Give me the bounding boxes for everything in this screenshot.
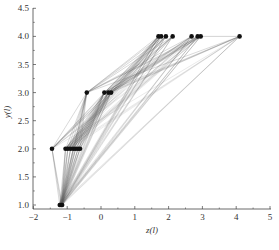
y-tick-label: 3.5 <box>18 60 30 70</box>
data-point <box>85 90 90 95</box>
x-tick-label: −1 <box>62 212 72 222</box>
data-point <box>198 34 203 39</box>
x-tick-label: 5 <box>268 212 273 222</box>
edge-line <box>52 36 198 148</box>
y-axis-label: y(l) <box>2 106 12 120</box>
x-axis-label: z(l) <box>145 225 158 235</box>
scatter-chart: −2−1012345 1.01.52.02.53.03.54.04.5 z(l)… <box>0 0 279 250</box>
data-point <box>164 34 169 39</box>
y-tick-label: 2.5 <box>18 116 30 126</box>
x-tick-label: 2 <box>166 212 171 222</box>
edge-line <box>62 36 201 205</box>
y-tick-label: 1.5 <box>18 172 30 182</box>
edge-line <box>71 36 198 148</box>
x-ticks: −2−1012345 <box>29 206 273 222</box>
edge-line <box>52 149 62 205</box>
edge-line <box>62 36 161 205</box>
data-point <box>237 34 242 39</box>
axes: −2−1012345 1.01.52.02.53.03.54.04.5 <box>18 3 273 222</box>
data-point <box>189 34 194 39</box>
x-tick-label: −2 <box>29 212 39 222</box>
data-point <box>50 147 55 152</box>
y-tick-label: 4.0 <box>18 31 30 41</box>
y-tick-label: 4.5 <box>18 3 30 13</box>
edge-line <box>71 36 201 148</box>
connection-lines <box>52 36 240 205</box>
x-tick-label: 0 <box>99 212 104 222</box>
data-point <box>102 90 107 95</box>
x-tick-label: 3 <box>200 212 205 222</box>
y-tick-label: 3.0 <box>18 88 30 98</box>
y-tick-label: 2.0 <box>18 144 30 154</box>
y-tick-label: 1.0 <box>18 200 30 210</box>
data-point <box>109 90 114 95</box>
data-point <box>159 34 164 39</box>
data-point <box>78 147 83 152</box>
data-point <box>170 34 175 39</box>
edge-line <box>71 36 159 148</box>
x-tick-label: 1 <box>133 212 138 222</box>
data-point <box>60 203 65 208</box>
x-tick-label: 4 <box>234 212 239 222</box>
